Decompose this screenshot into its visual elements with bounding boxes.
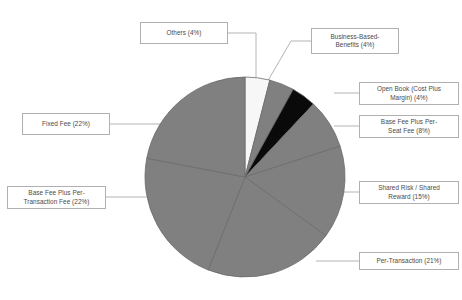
label-base-fee-per-seat-text: Base Fee Plus Per- Seat Fee (8%) <box>381 118 437 135</box>
bbb-line-1: Business-Based- <box>330 33 379 40</box>
seat-line-1: Base Fee Plus Per- <box>381 118 437 125</box>
label-base-fee-per-transaction[interactable]: Base Fee Plus Per- Transaction Fee (22%) <box>7 186 106 209</box>
label-business-based-benefits-text: Business-Based- Benefits (4%) <box>330 33 379 50</box>
open-book-line-2: Margin) (4%) <box>390 94 428 101</box>
bbb-line-2: Benefits (4%) <box>335 41 374 48</box>
leader-line-business-based-benefits <box>266 41 311 84</box>
label-shared-risk-shared-reward[interactable]: Shared Risk / Shared Reward (15%) <box>359 181 459 204</box>
shared-risk-line-1: Shared Risk / Shared <box>378 184 440 191</box>
label-per-transaction-text: Per-Transaction (21%) <box>376 257 441 265</box>
label-per-transaction[interactable]: Per-Transaction (21%) <box>359 252 459 270</box>
label-fixed-fee-text: Fixed Fee (22%) <box>42 120 90 128</box>
seat-line-2: Seat Fee (8%) <box>388 127 430 134</box>
pie-chart-figure: Others (4%) Business-Based- Benefits (4%… <box>0 0 462 300</box>
label-others[interactable]: Others (4%) <box>140 22 228 44</box>
bfpt-line-2: Transaction Fee (22%) <box>24 198 90 205</box>
open-book-line-1: Open Book (Cost Plus <box>377 85 441 92</box>
label-shared-risk-text: Shared Risk / Shared Reward (15%) <box>378 184 440 201</box>
label-others-text: Others (4%) <box>167 29 202 37</box>
label-business-based-benefits[interactable]: Business-Based- Benefits (4%) <box>311 28 399 54</box>
leader-line-others <box>228 33 256 77</box>
label-base-fee-per-seat[interactable]: Base Fee Plus Per- Seat Fee (8%) <box>359 115 459 138</box>
label-open-book-text: Open Book (Cost Plus Margin) (4%) <box>377 85 441 102</box>
label-open-book[interactable]: Open Book (Cost Plus Margin) (4%) <box>359 82 459 105</box>
shared-risk-line-2: Reward (15%) <box>388 193 429 200</box>
bfpt-line-1: Base Fee Plus Per- <box>28 189 84 196</box>
label-fixed-fee[interactable]: Fixed Fee (22%) <box>22 113 110 135</box>
label-base-fee-per-transaction-text: Base Fee Plus Per- Transaction Fee (22%) <box>24 189 90 206</box>
